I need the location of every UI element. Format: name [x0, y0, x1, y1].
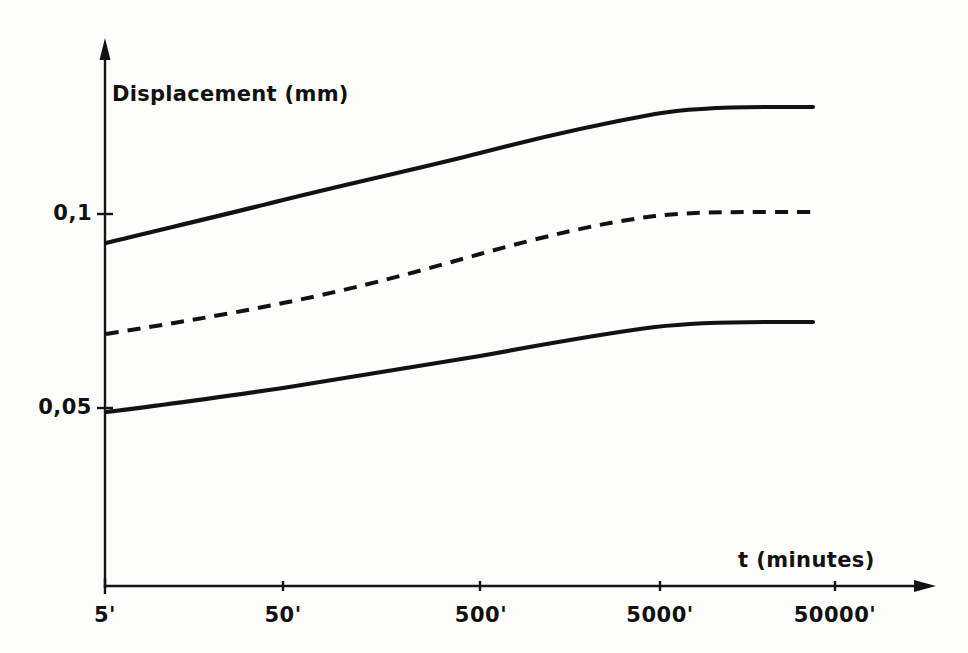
x-axis [105, 580, 936, 592]
x-axis-title: t (minutes) [738, 548, 875, 572]
y-axis [100, 38, 111, 587]
x-tick-label-2: 500' [436, 603, 526, 627]
x-tick-label-3: 5000' [607, 603, 713, 627]
y-tick-label-1: 0,05 [22, 395, 92, 419]
x-tick-label-1: 50' [248, 603, 318, 627]
x-tick-label-4: 50000' [773, 603, 897, 627]
series-lower-curve [106, 322, 813, 412]
x-axis-arrow-icon [914, 580, 936, 592]
y-tick-label-0: 0,1 [40, 201, 92, 225]
y-axis-arrow-icon [100, 38, 111, 60]
series-middle-curve [106, 212, 813, 334]
y-axis-title: Displacement (mm) [112, 82, 349, 106]
figure-root: Displacement (mm) 0,1 0,05 5' 50' 500' 5… [0, 0, 968, 653]
series-upper-curve [106, 107, 813, 243]
x-tick-label-0: 5' [75, 603, 135, 627]
